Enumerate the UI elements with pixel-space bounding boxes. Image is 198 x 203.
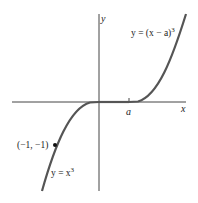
x-axis-label: x bbox=[180, 103, 186, 114]
label-cubic: y = x3 bbox=[51, 166, 75, 178]
point-neg1-neg1 bbox=[53, 143, 57, 147]
point-label: (−1, −1) bbox=[17, 140, 48, 151]
tick-label-a: a bbox=[126, 106, 131, 117]
label-shifted-cubic-exp: 3 bbox=[171, 26, 175, 34]
cubic-translation-diagram: y x a y = (x − a)3 y = x3 (−1, −1) bbox=[0, 0, 198, 203]
label-cubic-exp: 3 bbox=[71, 166, 75, 174]
label-cubic-main: y = x bbox=[51, 168, 71, 178]
label-shifted-cubic: y = (x − a)3 bbox=[131, 26, 175, 39]
label-shifted-cubic-main: y = (x − a) bbox=[131, 28, 171, 39]
y-axis-label: y bbox=[100, 13, 106, 24]
